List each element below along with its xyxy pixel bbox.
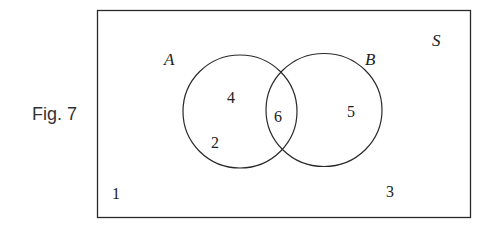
element-outside-1: 1: [112, 185, 120, 202]
figure-caption: Fig. 7: [32, 104, 77, 124]
element-a-only-1: 4: [227, 89, 235, 106]
element-b-only: 5: [347, 103, 355, 120]
venn-diagram: Fig. 7 A B S 4 2 6 5 1 3: [0, 0, 486, 230]
set-b-circle: [266, 54, 382, 167]
element-a-only-2: 2: [211, 134, 219, 151]
element-intersection: 6: [274, 108, 282, 125]
universe-label: S: [432, 31, 441, 50]
set-a-label: A: [163, 50, 175, 69]
element-outside-2: 3: [386, 183, 394, 200]
set-b-label: B: [365, 50, 376, 69]
universe-rectangle: [98, 11, 471, 218]
